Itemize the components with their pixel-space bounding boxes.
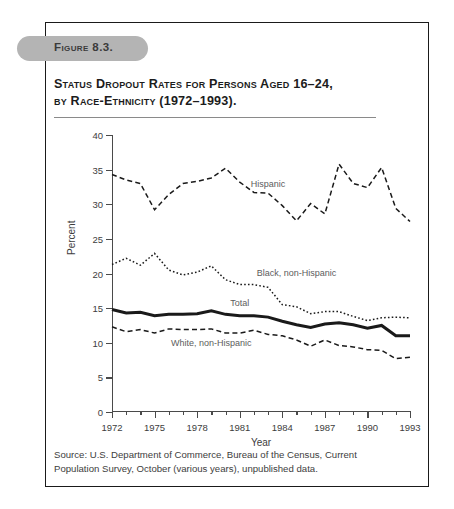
series-label-hispanic: Hispanic — [251, 179, 286, 189]
x-tick-major — [155, 411, 156, 418]
series-line-hispanic — [112, 164, 410, 221]
y-tick-label: 20 — [92, 268, 103, 279]
series-label-total: Total — [230, 298, 249, 308]
x-tick-label: 1987 — [314, 422, 335, 433]
figure-title: Status Dropout Rates for Persons Aged 16… — [54, 76, 384, 110]
series-label-white-non-hispanic: White, non-Hispanic — [171, 338, 252, 348]
series-line-white-non-hispanic — [112, 327, 410, 359]
y-tick-label: 35 — [92, 164, 103, 175]
y-tick-label: 25 — [92, 233, 103, 244]
x-tick-label: 1984 — [272, 422, 293, 433]
chart-plot-area: 0510152025303540 19721975197819811984198… — [112, 135, 410, 412]
y-tick-label: 40 — [92, 130, 103, 141]
x-tick-major — [367, 411, 368, 418]
title-divider — [54, 117, 376, 118]
source-note: Source: U.S. Department of Commerce, Bur… — [54, 448, 384, 475]
x-tick-label: 1975 — [144, 422, 165, 433]
x-tick-label: 1978 — [187, 422, 208, 433]
y-tick-label: 0 — [98, 407, 103, 418]
x-tick-label: 1993 — [399, 422, 420, 433]
y-tick-label: 10 — [92, 337, 103, 348]
x-tick-label: 1981 — [229, 422, 250, 433]
x-axis-label: Year — [251, 437, 271, 448]
x-tick-major — [410, 411, 411, 418]
y-tick-label: 5 — [98, 372, 103, 383]
y-tick-label: 30 — [92, 199, 103, 210]
x-tick-major — [197, 411, 198, 418]
y-axis-label: Percent — [66, 221, 77, 255]
x-tick-major — [240, 411, 241, 418]
x-tick-major — [282, 411, 283, 418]
y-tick-label: 15 — [92, 303, 103, 314]
figure-title-line-2: by Race-Ethnicity (1972–1993). — [54, 93, 384, 110]
figure-number-label: Figure 8.3. — [54, 41, 113, 53]
x-tick-major — [112, 411, 113, 418]
figure-page: Figure 8.3. Status Dropout Rates for Per… — [0, 0, 454, 509]
x-tick-major — [325, 411, 326, 418]
figure-title-line-1: Status Dropout Rates for Persons Aged 16… — [54, 76, 384, 93]
series-label-black-non-hispanic: Black, non-Hispanic — [257, 268, 337, 278]
x-tick-label: 1990 — [357, 422, 378, 433]
x-tick-label: 1972 — [101, 422, 122, 433]
series-line-black-non-hispanic — [112, 253, 410, 320]
